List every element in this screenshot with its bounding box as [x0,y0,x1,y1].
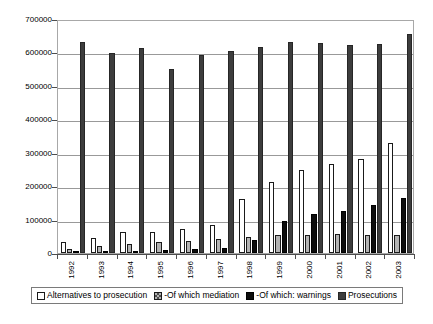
bar [109,53,114,253]
bar [377,44,382,253]
bar [305,235,310,253]
chart-legend: Alternatives to prosecution-Of which med… [31,287,403,304]
bar [282,221,287,253]
bar [318,43,323,253]
bar [407,34,412,253]
bar [288,42,293,253]
y-tick-label: 600000 [4,49,52,57]
bar [139,48,144,253]
legend-label: -Of which: warnings [256,291,331,300]
legend-label: Prosecutions [348,291,397,300]
y-tick-mark [52,221,57,222]
y-axis-labels: 0100000200000300000400000500000600000700… [0,0,52,324]
x-tick-label: 1998 [246,261,254,279]
x-tick-label: 2003 [395,261,403,279]
x-tick-label: 1999 [276,261,284,279]
bar [80,42,85,253]
x-tick-mark [325,255,326,259]
y-tick-label: 100000 [4,217,52,225]
bar [299,170,304,253]
x-tick-mark [414,255,415,259]
bar [347,45,352,253]
bar [210,225,215,253]
x-tick-label: 2002 [365,261,373,279]
x-tick-label: 1996 [187,261,195,279]
hatched-square-icon [154,292,162,300]
x-tick-mark [146,255,147,259]
x-tick-label: 1997 [217,261,225,279]
x-tick-label: 1994 [127,261,135,279]
y-tick-mark [52,254,57,255]
bar [120,232,125,253]
y-tick-mark [52,187,57,188]
y-tick-mark [52,120,57,121]
bar [133,251,138,253]
bar [371,205,376,253]
legend-item: -Of which: warnings [246,291,331,300]
bar [246,237,251,253]
y-tick-mark [52,154,57,155]
x-tick-mark [355,255,356,259]
bar [163,250,168,253]
x-tick-mark [87,255,88,259]
black-square-icon [246,292,254,300]
bar [156,242,161,253]
bar [365,235,370,253]
x-tick-label: 2000 [306,261,314,279]
bar [269,182,274,253]
x-tick-mark [236,255,237,259]
x-tick-mark [176,255,177,259]
bar [169,69,174,253]
bar [388,143,393,253]
y-tick-mark [52,20,57,21]
bar [150,232,155,253]
legend-item: Alternatives to prosecution [37,291,147,300]
y-tick-label: 200000 [4,183,52,191]
bar [258,47,263,253]
x-tick-label: 1992 [68,261,76,279]
y-tick-label: 300000 [4,150,52,158]
x-tick-label: 1993 [98,261,106,279]
bar [341,211,346,253]
bar [103,251,108,253]
bar [192,249,197,253]
white-square-icon [37,292,45,300]
legend-label: -Of which mediation [164,291,239,300]
x-tick-mark [57,255,58,259]
bar [275,235,280,253]
x-tick-mark [206,255,207,259]
x-tick-mark [384,255,385,259]
bar [228,51,233,253]
y-tick-label: 400000 [4,116,52,124]
bar [97,246,102,253]
bar [127,244,132,253]
bar [335,234,340,253]
bar [186,241,191,253]
bar-chart: 0100000200000300000400000500000600000700… [0,0,433,324]
dark-gray-square-icon [338,292,346,300]
legend-item: Prosecutions [338,291,397,300]
y-tick-mark [52,53,57,54]
bar [311,214,316,253]
bar [252,240,257,253]
bar [394,235,399,253]
bar [180,229,185,253]
bar [358,159,363,253]
bar [199,55,204,253]
x-tick-label: 1995 [157,261,165,279]
bar [216,239,221,253]
bar [222,248,227,253]
legend-item: -Of which mediation [154,291,239,300]
x-tick-mark [295,255,296,259]
y-tick-label: 500000 [4,83,52,91]
y-tick-label: 700000 [4,16,52,24]
bar [239,199,244,253]
bar [91,238,96,253]
bar [401,198,406,253]
bar [73,251,78,253]
x-tick-label: 2001 [336,261,344,279]
legend-label: Alternatives to prosecution [47,291,147,300]
plot-area [57,20,414,254]
y-tick-mark [52,87,57,88]
bar [61,242,66,253]
